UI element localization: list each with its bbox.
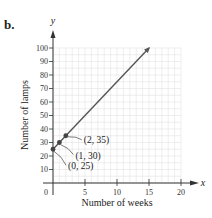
- x-axis-title: Number of weeks: [81, 197, 152, 208]
- line-chart: 10203040506070809010005101520 (0, 25)(1,…: [0, 0, 212, 218]
- y-tick-label: 50: [40, 111, 48, 120]
- point-label: (0, 25): [68, 161, 93, 172]
- x-tick-label: 15: [145, 188, 153, 197]
- x-tick-label: 5: [83, 188, 87, 197]
- leader-line: [54, 151, 66, 165]
- y-tick-label: 30: [40, 138, 48, 147]
- y-tick-label: 80: [40, 71, 48, 80]
- leader-line: [68, 137, 82, 140]
- x-axis-var: x: [200, 177, 206, 188]
- y-axis-arrow-icon: [51, 30, 56, 38]
- y-tick-label: 60: [40, 98, 48, 107]
- x-tick-label: 0: [44, 188, 48, 197]
- data-point: [57, 140, 62, 145]
- data-point: [51, 147, 56, 152]
- point-label: (2, 35): [84, 135, 109, 146]
- data-point: [63, 133, 68, 138]
- x-tick-label: 10: [113, 188, 121, 197]
- y-axis-title: Number of lamps: [19, 80, 30, 150]
- y-axis-var: y: [50, 15, 56, 26]
- y-tick-label: 90: [40, 57, 48, 66]
- x-tick-label: 20: [177, 188, 185, 197]
- y-tick-label: 40: [40, 125, 48, 134]
- y-tick-label: 20: [40, 152, 48, 161]
- y-tick-label: 10: [40, 165, 48, 174]
- x-axis-arrow-icon: [190, 181, 199, 186]
- y-tick-label: 70: [40, 84, 48, 93]
- point-label: (1, 30): [75, 151, 100, 162]
- y-tick-label: 100: [36, 44, 48, 53]
